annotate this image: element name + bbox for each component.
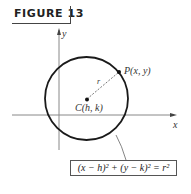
- equation-box: (x − h)² + (y − k)² = r²: [70, 160, 177, 176]
- x-axis-label: x: [172, 119, 178, 130]
- radius-label: r: [97, 77, 101, 86]
- leader-line: [116, 135, 126, 160]
- radius-line: [87, 72, 119, 99]
- point-p-label: P(x, y): [123, 65, 151, 77]
- y-axis-arrow-icon: [57, 28, 61, 35]
- point-p: [117, 70, 121, 74]
- center-point: [85, 98, 89, 102]
- center-label: C(h, k): [75, 102, 103, 114]
- x-axis-arrow-icon: [170, 113, 177, 117]
- y-axis-label: y: [61, 28, 67, 39]
